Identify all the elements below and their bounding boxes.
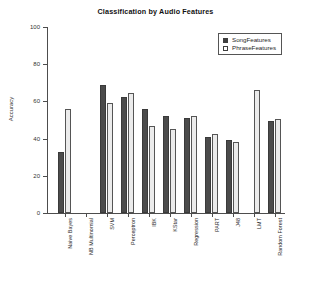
x-axis-label-svm: SVM	[109, 218, 115, 230]
y-tick-label-60: 60	[33, 98, 40, 104]
x-axis-label-lmt: LMT	[256, 218, 262, 229]
x-axis-label-random-forest: Random Forest	[277, 218, 283, 256]
bar-phrasefeatures-random-forest	[275, 119, 281, 213]
open-square-icon	[223, 46, 228, 51]
y-tick-80	[43, 64, 47, 65]
x-tick-9	[254, 213, 255, 217]
bar-phrasefeatures-j48	[233, 142, 239, 213]
x-tick-8	[233, 213, 234, 217]
x-axis-label-j48: J48	[235, 218, 241, 227]
legend-item-phrasefeatures: PhraseFeatures	[223, 45, 276, 51]
y-tick-60	[43, 101, 47, 102]
x-tick-5	[170, 213, 171, 217]
x-axis-line	[47, 213, 285, 214]
y-tick-20	[43, 176, 47, 177]
x-axis-label-nb-multinomial: NB Multinomial	[88, 218, 94, 255]
x-axis-label-naive-bayes: Naive Bayes	[67, 218, 73, 249]
y-tick-label-100: 100	[30, 24, 40, 30]
bar-songfeatures-regression	[184, 118, 190, 213]
x-tick-7	[212, 213, 213, 217]
y-tick-label-80: 80	[33, 61, 40, 67]
y-axis-title: Accuracy	[8, 89, 14, 129]
bar-phrasefeatures-ibk	[149, 126, 155, 213]
y-tick-0	[43, 213, 47, 214]
x-tick-2	[107, 213, 108, 217]
y-tick-label-40: 40	[33, 136, 40, 142]
x-tick-1	[86, 213, 87, 217]
x-tick-10	[275, 213, 276, 217]
chart-figure: Classification by Audio Features Accurac…	[0, 0, 311, 282]
bar-songfeatures-random-forest	[268, 121, 274, 213]
x-axis-label-part: PART	[214, 218, 220, 232]
x-axis-label-ibk: IBK	[151, 218, 157, 227]
x-tick-0	[65, 213, 66, 217]
chart-legend: SongFeaturesPhraseFeatures	[218, 33, 282, 55]
bar-songfeatures-ibk	[142, 109, 148, 213]
chart-title: Classification by Audio Features	[0, 7, 311, 16]
bar-songfeatures-perceptron	[121, 97, 127, 213]
bar-songfeatures-svm	[100, 85, 106, 213]
y-tick-100	[43, 27, 47, 28]
x-tick-3	[128, 213, 129, 217]
bar-phrasefeatures-regression	[191, 116, 197, 213]
bar-songfeatures-part	[205, 137, 211, 213]
legend-label: SongFeatures	[232, 37, 271, 43]
bar-songfeatures-naive-bayes	[58, 152, 64, 213]
x-tick-4	[149, 213, 150, 217]
filled-square-icon	[223, 38, 228, 43]
x-axis-label-kstar: KStar	[172, 218, 178, 232]
bar-phrasefeatures-part	[212, 134, 218, 213]
legend-item-songfeatures: SongFeatures	[223, 37, 276, 43]
bar-phrasefeatures-kstar	[170, 129, 176, 213]
bar-phrasefeatures-lmt	[254, 90, 260, 213]
bar-phrasefeatures-svm	[107, 103, 113, 213]
y-tick-label-0: 0	[37, 210, 40, 216]
x-tick-6	[191, 213, 192, 217]
y-axis-line	[47, 27, 48, 213]
bar-phrasefeatures-naive-bayes	[65, 109, 71, 213]
legend-label: PhraseFeatures	[232, 45, 276, 51]
y-tick-40	[43, 139, 47, 140]
x-axis-label-regression: Regression	[193, 218, 199, 246]
bar-phrasefeatures-perceptron	[128, 93, 134, 213]
bar-songfeatures-j48	[226, 140, 232, 213]
x-axis-label-perceptron: Perceptron	[130, 218, 136, 245]
y-tick-label-20: 20	[33, 173, 40, 179]
bar-songfeatures-kstar	[163, 116, 169, 213]
